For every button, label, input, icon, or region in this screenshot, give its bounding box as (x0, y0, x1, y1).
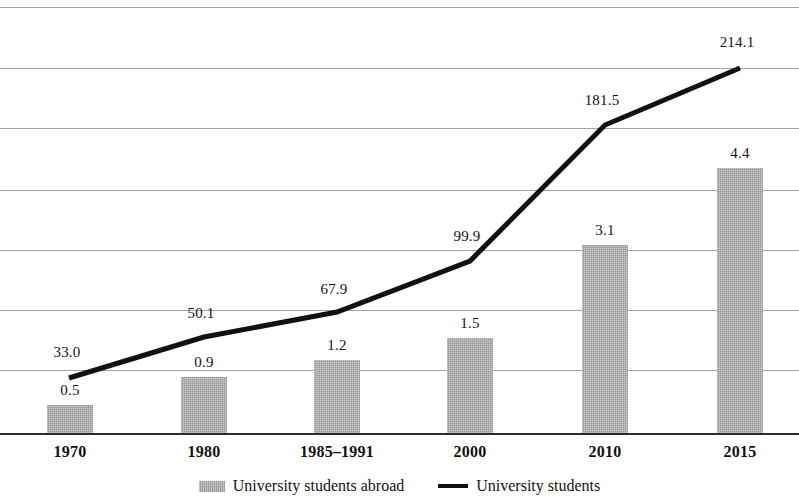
line-swatch-icon (438, 484, 468, 488)
x-axis-label-1985-1991: 1985–1991 (277, 440, 397, 464)
line-series-university-students[interactable] (0, 0, 799, 440)
x-axis-label-1970: 1970 (10, 440, 130, 464)
bar-value-label-2015: 4.4 (705, 145, 775, 161)
x-axis-line (0, 433, 799, 435)
legend-item-university-students-abroad[interactable]: University students abroad (199, 477, 405, 495)
legend-item-university-students[interactable]: University students (438, 477, 600, 495)
bar-swatch-icon (199, 481, 225, 492)
bar-value-label-1985-1991: 1.2 (302, 337, 372, 353)
chart-legend: University students abroad University st… (0, 472, 799, 500)
bar-value-label-1980: 0.9 (169, 354, 239, 370)
x-axis-label-1980: 1980 (144, 440, 264, 464)
bar-value-label-2010: 3.1 (570, 222, 640, 238)
line-value-label-1985-1991: 67.9 (294, 281, 374, 297)
x-axis-label-2015: 2015 (680, 440, 799, 464)
line-value-label-1970: 33.0 (27, 344, 107, 360)
line-value-label-2015: 214.1 (697, 34, 777, 50)
x-axis-label-2000: 2000 (410, 440, 530, 464)
bar-value-label-1970: 0.5 (35, 382, 105, 398)
line-value-label-2010: 181.5 (562, 92, 642, 108)
x-axis-label-2010: 2010 (545, 440, 665, 464)
bar-value-label-2000: 1.5 (435, 315, 505, 331)
chart-container: 0.5 0.9 1.2 1.5 3.1 4.4 33.0 50.1 67.9 9… (0, 0, 799, 500)
legend-label-university-students: University students (476, 477, 600, 495)
x-axis-labels: 1970 1980 1985–1991 2000 2010 2015 (0, 440, 799, 470)
line-value-label-2000: 99.9 (427, 228, 507, 244)
plot-area: 0.5 0.9 1.2 1.5 3.1 4.4 33.0 50.1 67.9 9… (0, 0, 799, 440)
line-value-label-1980: 50.1 (161, 305, 241, 321)
legend-label-university-students-abroad: University students abroad (233, 477, 405, 495)
